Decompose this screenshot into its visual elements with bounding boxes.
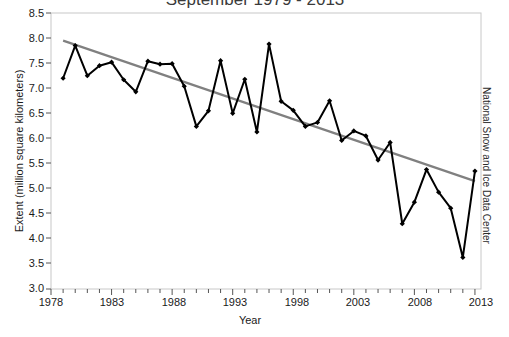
data-point xyxy=(242,77,247,82)
data-point xyxy=(157,62,162,67)
data-point xyxy=(145,59,150,64)
data-series-group xyxy=(61,42,478,260)
series-line xyxy=(63,44,475,257)
x-axis-ticks xyxy=(51,289,475,295)
data-point xyxy=(266,42,271,47)
data-point xyxy=(230,111,235,116)
sea-ice-extent-chart: September 1979 - 2013 Extent (million sq… xyxy=(0,0,509,337)
data-point xyxy=(472,168,477,173)
plot-frame xyxy=(51,13,481,289)
data-point xyxy=(460,255,465,260)
y-axis-ticks xyxy=(46,13,51,289)
data-point xyxy=(254,129,259,134)
chart-canvas xyxy=(0,0,509,337)
data-point xyxy=(218,58,223,63)
trend-line xyxy=(63,41,475,182)
series-markers xyxy=(61,42,478,260)
trend-line-group xyxy=(63,41,475,182)
data-point xyxy=(61,76,66,81)
